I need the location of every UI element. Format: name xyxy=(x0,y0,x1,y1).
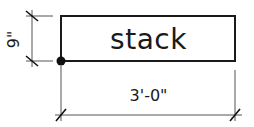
width-dimension-label: 3'-0" xyxy=(62,86,235,105)
height-dimension-label: 9" xyxy=(4,25,23,55)
element-label: stack xyxy=(62,17,235,61)
